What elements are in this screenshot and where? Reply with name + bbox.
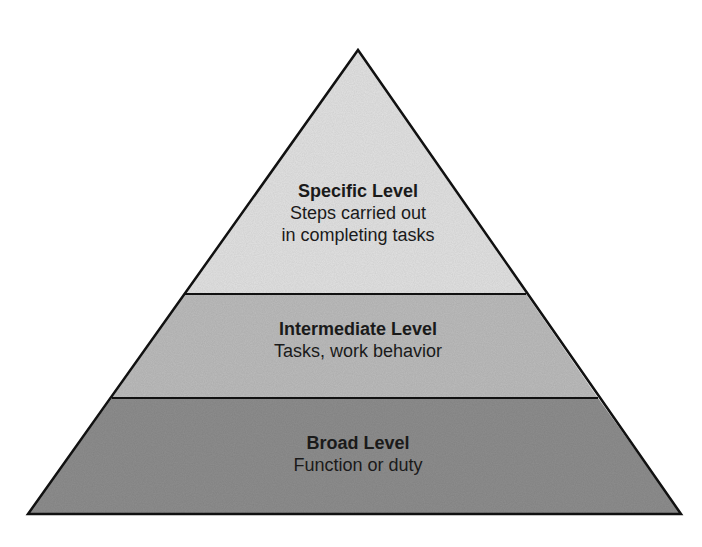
level-title: Specific Level xyxy=(258,180,458,202)
level-title: Intermediate Level xyxy=(228,318,488,340)
level-description-line: in completing tasks xyxy=(258,224,458,246)
label-specific-level: Specific Level Steps carried out in comp… xyxy=(258,180,458,246)
label-broad-level: Broad Level Function or duty xyxy=(258,432,458,476)
level-description-line: Function or duty xyxy=(258,454,458,476)
label-intermediate-level: Intermediate Level Tasks, work behavior xyxy=(228,318,488,362)
level-description-line: Tasks, work behavior xyxy=(228,340,488,362)
level-description-line: Steps carried out xyxy=(258,202,458,224)
pyramid-level-specific xyxy=(185,50,526,294)
level-title: Broad Level xyxy=(258,432,458,454)
